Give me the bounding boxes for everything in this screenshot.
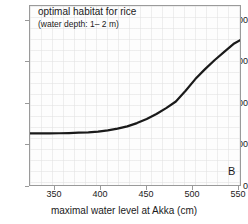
annotation-line-2: (water depth: 1– 2 m) — [38, 18, 136, 30]
xtick-label-350: 350 — [34, 189, 74, 199]
ytick-mark-0 — [25, 186, 29, 187]
xtick-label-400: 400 — [80, 189, 120, 199]
plot-area — [29, 5, 241, 186]
chart-figure: 4000 3000 2000 1000 0 optimal habitat fo… — [0, 0, 248, 224]
x-axis-title: maximal water level at Akka (cm) — [0, 205, 248, 216]
annotation-line-1: optimal habitat for rice — [38, 6, 136, 18]
xtick-label-500: 500 — [172, 189, 212, 199]
xtick-label-450: 450 — [126, 189, 166, 199]
data-curve — [30, 6, 241, 186]
panel-label: B — [228, 165, 235, 177]
annotation-text: optimal habitat for rice (water depth: 1… — [38, 6, 136, 30]
xtick-label-550: 550 — [218, 189, 248, 199]
